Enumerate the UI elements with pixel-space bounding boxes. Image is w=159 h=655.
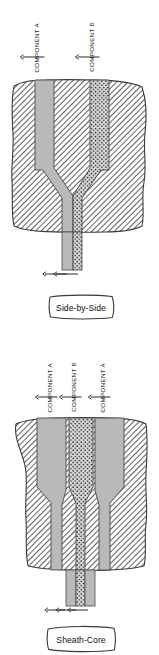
panel-side-by-side [12, 57, 146, 319]
label-panel2-component-a-left: COMPONENT A [46, 363, 53, 412]
filament-sheath-right-2 [85, 570, 95, 606]
label-panel1-component-a: COMPONENT A [33, 23, 40, 72]
label-panel1-component-b: COMPONENT B [88, 22, 95, 72]
filament-core-2 [76, 570, 85, 606]
label-panel2-component-a-right: COMPONENT A [99, 363, 106, 412]
callout-label-sheath-core: Sheath-Core [46, 627, 116, 652]
label-panel2-component-b: COMPONENT B [70, 362, 77, 412]
filament-a-1 [62, 232, 73, 270]
callout-sheath-core: Sheath-Core [46, 627, 116, 652]
filament-b-1 [73, 232, 82, 270]
callout-label-side-by-side: Side-by-Side [48, 295, 114, 320]
callout-side-by-side: Side-by-Side [48, 295, 114, 320]
filament-sheath-left-2 [66, 570, 76, 606]
diagram-canvas: COMPONENT A COMPONENT B Side-by-Side COM… [0, 0, 159, 655]
diagram-svg [0, 0, 159, 655]
panel-sheath-core [16, 397, 148, 652]
